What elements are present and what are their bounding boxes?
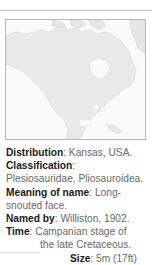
size-row: Size: 5m (17ft) — [6, 252, 152, 265]
meaning-row: Meaning of name: Long- — [6, 186, 152, 199]
page-edge-shadow — [0, 252, 40, 253]
distribution-map — [5, 19, 146, 140]
named-by-row: Named by: Williston, 1902. — [6, 212, 152, 225]
species-facts: Distribution: Kansas, USA. Classificatio… — [6, 146, 152, 265]
size-label: Size — [70, 253, 90, 264]
time-value-cont: the late Cretaceous. — [6, 238, 152, 251]
classification-label: Classification — [6, 160, 72, 171]
meaning-label: Meaning of name — [6, 187, 89, 198]
classification-row: Classification: — [6, 159, 152, 172]
time-row: Time: Campanian stage of — [6, 225, 152, 238]
named-by-label: Named by — [6, 213, 55, 224]
time-label: Time — [6, 226, 30, 237]
time-value: Campanian stage of — [35, 226, 126, 237]
distribution-label: Distribution — [6, 147, 63, 158]
meaning-value-cont: snouted face. — [6, 199, 152, 212]
kansas-highlight — [80, 120, 90, 126]
named-by-value: Williston, 1902. — [60, 213, 129, 224]
top-divider — [0, 10, 152, 11]
distribution-row: Distribution: Kansas, USA. — [6, 146, 152, 159]
size-value: 5m (17ft) — [96, 253, 137, 264]
classification-value: Plesiosauridae, Pliosauroidea. — [6, 172, 152, 185]
north-america-map-icon — [6, 20, 145, 139]
meaning-value: Long- — [95, 187, 121, 198]
distribution-value: Kansas, USA. — [69, 147, 132, 158]
